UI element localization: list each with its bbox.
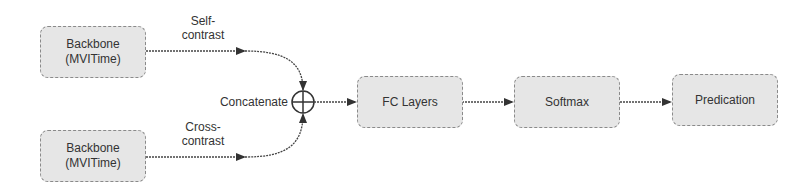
backbone-top-line1: Backbone: [65, 37, 121, 52]
backbone-bottom-line1: Backbone: [65, 141, 121, 156]
prediction-node: Predication: [672, 74, 778, 126]
cross-contrast-line1: Cross-: [168, 120, 238, 134]
cross-contrast-line2: contrast: [168, 134, 238, 148]
circle-plus-icon: [292, 91, 314, 113]
fc-layers-node: FC Layers: [357, 76, 463, 128]
backbone-bottom-line2: (MVITime): [65, 156, 121, 171]
softmax-node: Softmax: [514, 76, 620, 128]
backbone-top-node: Backbone (MVITime): [40, 26, 146, 78]
backbone-top-line2: (MVITime): [65, 52, 121, 67]
cross-contrast-label: Cross- contrast: [168, 120, 238, 148]
self-contrast-line2: contrast: [168, 28, 238, 42]
self-contrast-line1: Self-: [168, 14, 238, 28]
concatenate-label: Concatenate: [210, 95, 288, 109]
backbone-bottom-node: Backbone (MVITime): [40, 130, 146, 182]
self-contrast-label: Self- contrast: [168, 14, 238, 42]
